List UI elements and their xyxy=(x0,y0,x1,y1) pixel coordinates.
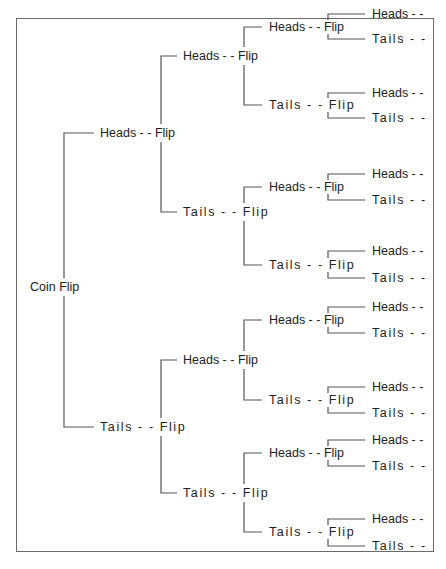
l3-node: Heads - - Flip xyxy=(269,20,344,34)
leaf-node: Heads - - xyxy=(372,433,423,447)
l3-node: Heads - - Flip xyxy=(269,313,344,327)
leaf-node: Heads - - xyxy=(372,300,423,314)
leaf-node: Heads - - xyxy=(372,380,423,394)
leaf-node: Tails - - xyxy=(372,326,427,340)
l3-node: Heads - - Flip xyxy=(269,446,344,460)
l3-node: Tails - - Flip xyxy=(269,525,355,539)
root-node: Coin Flip xyxy=(30,280,79,294)
l2-node: Tails - - Flip xyxy=(183,486,269,500)
l2-node: Heads - - Flip xyxy=(183,49,258,63)
leaf-node: Tails - - xyxy=(372,271,427,285)
leaf-node: Heads - - xyxy=(372,86,423,100)
leaf-node: Tails - - xyxy=(372,111,427,125)
l2-node: Tails - - Flip xyxy=(183,205,269,219)
l1-heads-node: Heads - - Flip xyxy=(100,126,175,140)
leaf-node: Heads - - xyxy=(372,167,423,181)
l1-tails-node: Tails - - Flip xyxy=(100,420,186,434)
leaf-node: Heads - - xyxy=(372,7,423,21)
leaf-node: Heads - - xyxy=(372,244,423,258)
leaf-node: Heads - - xyxy=(372,512,423,526)
leaf-node: Tails - - xyxy=(372,193,427,207)
leaf-node: Tails - - xyxy=(372,406,427,420)
l2-node: Heads - - Flip xyxy=(183,353,258,367)
leaf-node: Tails - - xyxy=(372,459,427,473)
leaf-node: Tails - - xyxy=(372,539,427,553)
l3-node: Tails - - Flip xyxy=(269,258,355,272)
leaf-node: Tails - - xyxy=(372,32,427,46)
l3-node: Heads - - Flip xyxy=(269,180,344,194)
l3-node: Tails - - Flip xyxy=(269,393,355,407)
l3-node: Tails - - Flip xyxy=(269,98,355,112)
